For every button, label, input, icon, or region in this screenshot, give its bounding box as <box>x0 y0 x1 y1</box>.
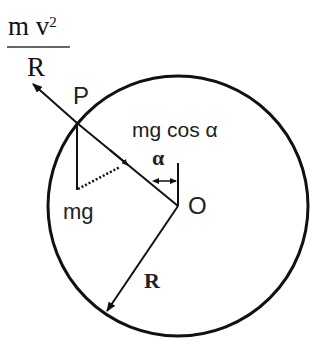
exponent: 2 <box>49 14 57 30</box>
velocity-symbol: v <box>36 11 50 41</box>
label-center-o: O <box>188 192 207 220</box>
mass-symbol: m <box>8 11 29 41</box>
label-weight: mg <box>63 199 94 225</box>
label-component: mg cos α <box>132 118 218 142</box>
centripetal-force-arrow <box>33 84 77 123</box>
fraction-numerator: m v2 <box>8 11 57 41</box>
component-arrow <box>110 150 128 165</box>
physics-diagram: m v2 R P mg cos α α O mg R <box>0 0 331 353</box>
fraction-denominator: R <box>27 52 45 82</box>
diagram-svg <box>0 0 331 353</box>
label-point-p: P <box>73 82 89 110</box>
label-radius: R <box>144 268 160 294</box>
label-angle: α <box>152 145 164 171</box>
projection-dotted-line <box>78 167 120 189</box>
radius-arrow <box>107 206 178 311</box>
